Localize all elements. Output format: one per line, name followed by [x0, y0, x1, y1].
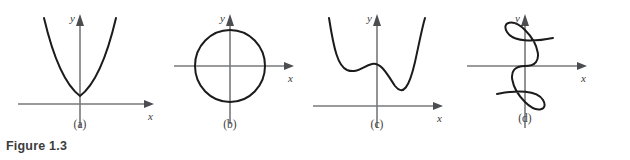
x-axis-label: x: [436, 112, 442, 124]
y-axis-label: y: [219, 12, 225, 24]
y-axis-arrowhead: [521, 14, 529, 26]
y-axis-label: y: [69, 12, 75, 24]
x-axis-label: x: [147, 110, 153, 122]
x-axis-arrowhead: [144, 100, 154, 108]
x-axis-arrowhead: [284, 62, 294, 70]
panel-tag-a: (a): [60, 118, 100, 130]
x-axis-label: x: [287, 72, 293, 84]
x-axis-arrowhead: [577, 62, 587, 70]
x-axis-label: x: [580, 72, 586, 84]
panel-tag-d: (d): [505, 112, 545, 124]
panel-d-s-curve: y x (d): [455, 0, 615, 138]
y-axis-arrowhead: [76, 14, 84, 26]
figure-1-3: y x (a) y x (b): [0, 0, 630, 160]
panel-c-quartic: y x (c): [305, 0, 465, 138]
x-axis-arrowhead: [433, 102, 443, 110]
y-axis-label: y: [514, 12, 520, 24]
y-axis-arrowhead: [226, 14, 234, 26]
panel-tag-c: (c): [357, 118, 397, 130]
y-axis-label: y: [366, 12, 372, 24]
panel-b-circle: y x (b): [160, 0, 320, 138]
y-axis-arrowhead: [373, 14, 381, 26]
panel-a-parabola: y x (a): [10, 0, 170, 138]
figure-caption: Figure 1.3: [6, 139, 67, 153]
panel-row: y x (a) y x (b): [0, 0, 630, 138]
panel-tag-b: (b): [210, 118, 250, 130]
